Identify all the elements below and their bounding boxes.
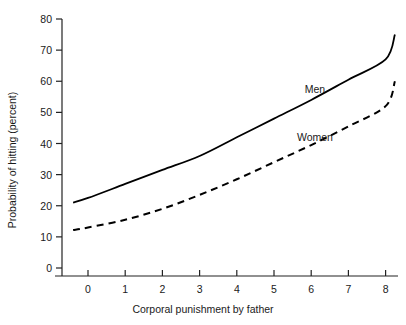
chart-figure: 01020304050607080 012345678 MenWomen Cor…	[0, 0, 406, 325]
series-line-women	[73, 81, 395, 230]
x-ticks-group	[88, 270, 386, 276]
chart-plot-area	[0, 0, 406, 325]
data-series-group	[73, 35, 395, 230]
y-ticks-group	[56, 19, 62, 268]
x-axis-title: Corporal punishment by father	[132, 303, 273, 315]
x-tick-label: 8	[383, 284, 389, 295]
x-tick-label: 7	[345, 284, 351, 295]
x-tick-label: 6	[308, 284, 314, 295]
series-label-women: Women	[297, 131, 333, 143]
y-tick-label: 70	[0, 45, 52, 56]
y-axis-title: Probability of hitting (percent)	[6, 92, 18, 229]
x-tick-label: 0	[85, 284, 91, 295]
x-tick-label: 4	[234, 284, 240, 295]
x-tick-label: 2	[159, 284, 165, 295]
series-label-men: Men	[305, 83, 325, 95]
series-line-men	[73, 35, 395, 203]
x-tick-label: 5	[271, 284, 277, 295]
y-tick-label: 60	[0, 76, 52, 87]
x-tick-label: 3	[197, 284, 203, 295]
y-tick-label: 0	[0, 263, 52, 274]
y-tick-label: 10	[0, 232, 52, 243]
y-tick-label: 80	[0, 14, 52, 25]
axes-group	[55, 19, 398, 276]
x-tick-label: 1	[122, 284, 128, 295]
